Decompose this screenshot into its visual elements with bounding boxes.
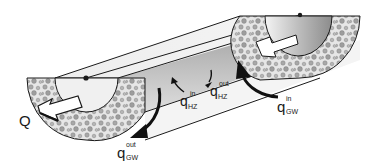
q-gw-out-label: q out GW <box>117 141 138 161</box>
svg-text:q: q <box>277 98 285 115</box>
svg-text:q: q <box>210 83 218 99</box>
discharge-label: Q <box>19 112 31 129</box>
q-gw-in-label: q in GW <box>277 95 298 115</box>
svg-text:GW: GW <box>126 154 138 161</box>
svg-text:HZ: HZ <box>188 103 198 110</box>
svg-text:in: in <box>286 95 292 102</box>
svg-text:out: out <box>126 141 136 148</box>
svg-text:q: q <box>117 144 125 161</box>
svg-text:out: out <box>219 80 229 87</box>
downstream-cross-section <box>231 13 360 80</box>
svg-text:q: q <box>180 93 188 109</box>
svg-text:HZ: HZ <box>218 93 228 100</box>
svg-text:in: in <box>190 90 196 97</box>
stream-diagram: Q q out GW q in HZ q out HZ q in GW <box>0 0 375 168</box>
water-level-marker-icon <box>298 13 302 17</box>
svg-text:GW: GW <box>286 108 298 115</box>
water-level-marker-icon <box>83 75 88 80</box>
